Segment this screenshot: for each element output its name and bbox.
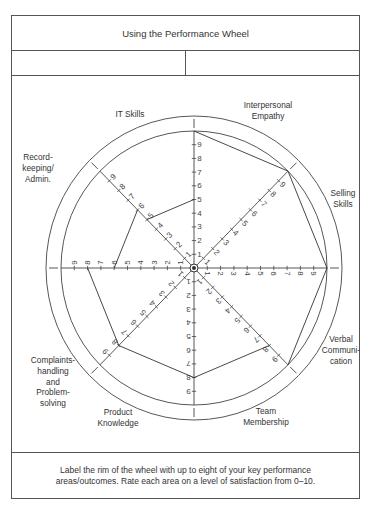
scale-label: 1: [176, 260, 185, 265]
rating-chord: [119, 345, 194, 377]
scale-label: 9: [309, 271, 318, 276]
rating-chord: [288, 171, 327, 268]
hub-icon: [190, 264, 198, 272]
category-label-line: Team: [256, 406, 276, 416]
rating-chord: [88, 268, 119, 345]
category-label-line: Problem-: [36, 387, 70, 397]
scale-label: 2: [216, 271, 225, 276]
scale-label: 8: [296, 271, 305, 276]
scale-label: 3: [150, 260, 159, 265]
scale-label: 4: [186, 318, 191, 327]
performance-wheel: 1234567891234567891234567891234567891234…: [0, 0, 376, 506]
rim-divider: [290, 163, 296, 169]
category-label: SellingSkills: [331, 188, 356, 209]
scale-label: 4: [243, 271, 252, 276]
scale-label: 6: [269, 271, 278, 276]
spoke-6: 123456789: [61, 260, 194, 270]
rating-chord: [194, 131, 288, 171]
rating-chord: [147, 200, 194, 220]
spoke-4: 123456789: [186, 268, 196, 405]
scale-label: 3: [229, 271, 238, 276]
category-label: Complaints-handlingandProblem-solving: [31, 355, 76, 408]
scale-label: 6: [186, 346, 191, 355]
category-label: InterpersonalEmpathy: [244, 100, 293, 121]
scale-label: 7: [197, 168, 202, 177]
category-label-line: cation: [330, 356, 353, 366]
category-label-line: and: [46, 377, 60, 387]
category-label-line: Membership: [243, 417, 289, 427]
category-label-line: Selling: [331, 188, 356, 198]
scale-label: 8: [197, 154, 202, 163]
rim-divider: [91, 163, 97, 169]
rim-divider: [290, 367, 296, 373]
scale-label: 5: [123, 260, 132, 265]
scale-label: 4: [197, 209, 202, 218]
category-label-line: Interpersonal: [244, 100, 293, 110]
category-label-line: Skills: [333, 199, 352, 209]
category-label-line: Communi-: [322, 345, 361, 355]
scale-label: 1: [186, 277, 191, 286]
category-label-line: Record-: [23, 152, 53, 162]
scale-label: 5: [197, 195, 202, 204]
scale-label: 1: [203, 271, 212, 276]
scale-label: 2: [163, 260, 172, 265]
category-label-line: Empathy: [252, 111, 286, 121]
scale-label: 2: [186, 291, 191, 300]
scale-label: 3: [197, 222, 202, 231]
scale-label: 3: [186, 305, 191, 314]
category-label: Record-keeping/Admin.: [22, 152, 54, 184]
scale-label: 4: [136, 260, 145, 265]
spoke-3: 123456789: [194, 268, 288, 365]
scale-label: 9: [186, 387, 191, 396]
scale-label: 5: [186, 332, 191, 341]
category-label-line: handling: [37, 366, 69, 376]
spoke-1: 123456789: [194, 171, 288, 268]
scale-label: 7: [283, 271, 292, 276]
category-label-line: Product: [104, 407, 133, 417]
category-label-line: Verbal: [329, 334, 353, 344]
scale-label: 2: [197, 236, 202, 245]
rating-chord: [194, 345, 269, 377]
category-label-line: solving: [40, 398, 66, 408]
scale-label: 7: [186, 359, 191, 368]
category-label-line: IT Skills: [116, 109, 145, 119]
category-label-line: Knowledge: [97, 418, 138, 428]
spoke-5: 123456789: [100, 268, 194, 365]
rim-divider: [91, 367, 97, 373]
scale-label: 6: [197, 181, 202, 190]
category-label-line: Admin.: [25, 174, 51, 184]
scale-label: 8: [83, 260, 92, 265]
rating-chord: [114, 210, 137, 268]
category-label-line: Complaints-: [31, 355, 76, 365]
category-label: ProductKnowledge: [97, 407, 138, 428]
category-label: VerbalCommuni-cation: [322, 334, 361, 366]
scale-label: 9: [197, 140, 202, 149]
scale-label: 9: [70, 260, 79, 265]
scale-label: 5: [256, 271, 265, 276]
scale-label: 1: [197, 250, 202, 259]
category-label: IT Skills: [116, 109, 145, 119]
spoke-2: 123456789: [194, 266, 327, 276]
scale-label: 7: [96, 260, 105, 265]
category-label-line: keeping/: [22, 163, 54, 173]
